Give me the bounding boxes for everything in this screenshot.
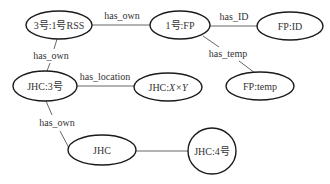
svg-text:JHC: JHC	[93, 145, 111, 156]
edge-rss-to-jhc3-a	[54, 39, 57, 49]
node-fp-id: FP:ID	[257, 12, 323, 40]
svg-text:JHC:4号: JHC:4号	[194, 146, 230, 157]
edge-rss-to-jhc3-b	[47, 63, 50, 71]
edge-fp-to-temp-b	[239, 61, 255, 73]
edge-label-has-own-1: has_own	[104, 10, 140, 21]
node-jhc-x-times-y: JHC:X×Y	[134, 73, 202, 101]
edge-jhc3-to-jhc-a	[46, 101, 52, 115]
knowledge-graph-diagram: has_own has_ID has_temp has_own has_loca…	[0, 0, 330, 184]
edge-label-has-location: has_location	[80, 71, 131, 82]
svg-text:JHC:X×Y: JHC:X×Y	[149, 82, 189, 93]
svg-text:3号:1号RSS: 3号:1号RSS	[34, 20, 85, 31]
node-1hao-fp: 1号:FP	[150, 11, 210, 39]
node-jhc: JHC	[68, 135, 136, 165]
node-3hao-1hao-rss: 3号:1号RSS	[26, 11, 92, 39]
node-jhc-4hao: JHC:4号	[188, 128, 236, 174]
edge-label-has-temp: has_temp	[209, 48, 247, 59]
edge-label-has-own-3: has_own	[39, 117, 75, 128]
node-fp-temp: FP:temp	[226, 72, 294, 100]
node-jhc-3hao: JHC:3号	[13, 71, 77, 101]
edge-fp-to-temp-a	[203, 36, 219, 47]
svg-text:FP:ID: FP:ID	[278, 21, 302, 32]
edge-label-has-own-2: has_own	[33, 50, 69, 61]
svg-text:1号:FP: 1号:FP	[166, 20, 195, 31]
edge-jhc3-to-jhc-b	[60, 131, 69, 148]
svg-text:FP:temp: FP:temp	[243, 81, 277, 92]
svg-text:JHC:3号: JHC:3号	[27, 81, 63, 92]
edge-label-has-id: has_ID	[220, 11, 249, 22]
